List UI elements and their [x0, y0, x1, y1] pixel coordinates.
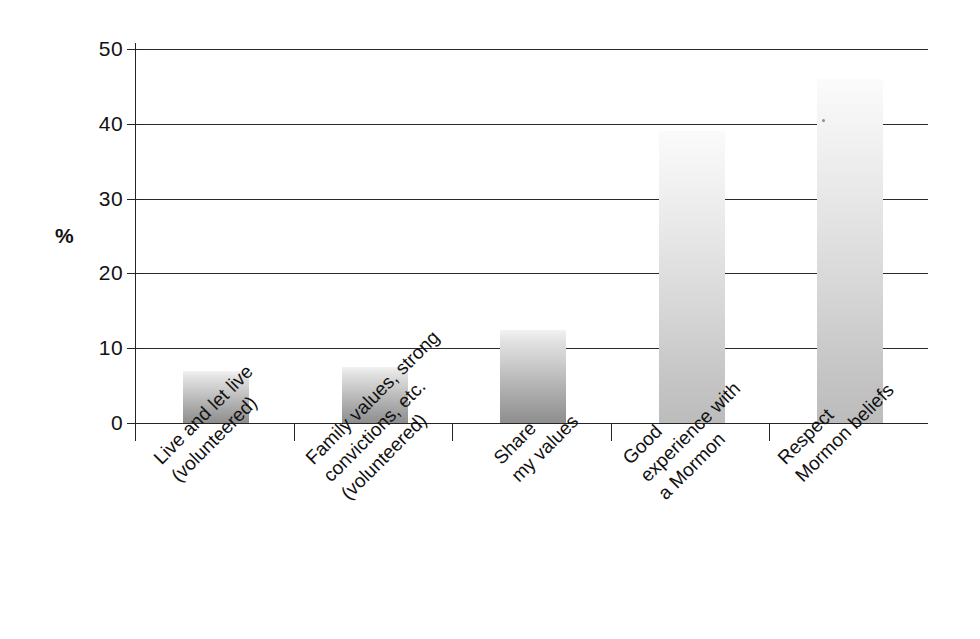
y-tick-label-20: 20 — [99, 261, 123, 285]
y-tick-30 — [127, 199, 143, 200]
y-tick-40 — [127, 124, 143, 125]
x-tick-1 — [135, 423, 136, 441]
gridline-50 — [135, 49, 928, 50]
y-tick-label-0: 0 — [111, 411, 123, 435]
y-tick-label-50: 50 — [99, 37, 123, 61]
x-tick-4 — [611, 423, 612, 441]
gridline-30 — [135, 199, 928, 200]
y-tick-10 — [127, 348, 143, 349]
y-tick-50 — [127, 49, 143, 50]
y-tick-label-10: 10 — [99, 336, 123, 360]
gridline-40 — [135, 124, 928, 125]
x-tick-5 — [769, 423, 770, 441]
y-tick-label-30: 30 — [99, 187, 123, 211]
bar-chart: % 01020304050 Live and let live(voluntee… — [0, 0, 980, 639]
x-tick-2 — [294, 423, 295, 441]
y-axis-title: % — [55, 224, 74, 248]
y-tick-20 — [127, 273, 143, 274]
x-tick-3 — [452, 423, 453, 441]
gridline-20 — [135, 273, 928, 274]
y-tick-label-40: 40 — [99, 112, 123, 136]
plot-area: 01020304050 — [135, 49, 928, 423]
